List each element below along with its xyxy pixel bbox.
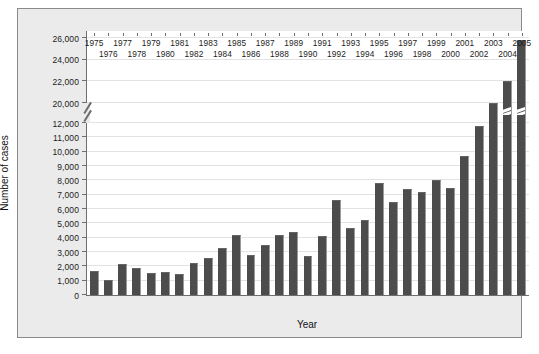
bar <box>389 202 398 295</box>
y-axis-title: Number of cases <box>0 135 10 211</box>
x-axis-tick-label: 1986 <box>242 49 261 59</box>
x-axis-tick <box>94 33 95 36</box>
x-axis-tick <box>465 33 466 36</box>
x-axis-tick-label: 1990 <box>299 49 318 59</box>
x-axis-tick-label: 1994 <box>356 49 375 59</box>
y-axis-tick-label: 4,000 <box>57 233 79 243</box>
x-axis-tick <box>265 33 266 36</box>
bar <box>432 180 441 295</box>
y-axis-tick-label: 24,000 <box>52 55 79 65</box>
x-axis-tick-label: 1993 <box>341 38 360 48</box>
figure: Number of cases 01,0002,0003,0004,0005,0… <box>0 0 539 354</box>
x-axis-tick <box>180 33 181 36</box>
bar <box>261 245 270 295</box>
bar <box>332 200 341 295</box>
x-axis-tick-label: 1992 <box>327 49 346 59</box>
x-axis-tick-label: 1996 <box>384 49 403 59</box>
x-axis-tick-label: 1977 <box>113 38 132 48</box>
x-axis-tick <box>436 33 437 36</box>
x-axis-tick-label: 1991 <box>313 38 332 48</box>
bar <box>289 232 298 295</box>
x-axis-tick-label: 1995 <box>370 38 389 48</box>
bar <box>132 268 141 295</box>
y-axis-tick-label: 0 <box>74 291 79 301</box>
bar <box>147 273 156 295</box>
y-axis-tick-label: 1,000 <box>57 276 79 286</box>
chart-panel: Number of cases 01,0002,0003,0004,0005,0… <box>17 8 522 338</box>
bar <box>446 188 455 296</box>
x-axis-tick <box>251 33 252 36</box>
x-axis-tick <box>237 33 238 36</box>
x-axis-tick-label: 1975 <box>85 38 104 48</box>
y-axis-tick-label: 11,000 <box>53 133 79 143</box>
y-axis-tick-label: 5,000 <box>57 219 79 229</box>
bar <box>204 258 213 295</box>
bar <box>161 272 170 295</box>
y-axis-tick-label: 7,000 <box>57 190 79 200</box>
x-axis-tick <box>294 33 295 36</box>
x-axis-tick <box>137 33 138 36</box>
x-axis-tick <box>493 33 494 36</box>
x-axis-tick <box>108 33 109 36</box>
bar <box>90 271 99 295</box>
x-axis-tick <box>208 33 209 36</box>
x-axis-tick-label: 2003 <box>484 38 503 48</box>
bar <box>190 263 199 295</box>
y-axis-tick-label: 8,000 <box>57 176 79 186</box>
bar <box>304 256 313 295</box>
x-axis-tick <box>379 33 380 36</box>
x-axis-tick <box>308 33 309 36</box>
y-axis-tick-label: 2,000 <box>57 262 79 272</box>
x-axis-tick-label: 1985 <box>227 38 246 48</box>
x-axis-tick-label: 1999 <box>427 38 446 48</box>
y-axis-tick-label: 3,000 <box>57 248 79 258</box>
x-axis-tick-label: 1987 <box>256 38 275 48</box>
x-axis-tick-label: 1997 <box>398 38 417 48</box>
y-axis-tick-label: 9,000 <box>57 162 79 172</box>
x-axis-tick <box>222 33 223 36</box>
bar-break-mark <box>503 106 511 115</box>
x-axis-tick <box>337 33 338 36</box>
bar <box>517 40 526 295</box>
x-axis-tick <box>394 33 395 36</box>
y-axis-tick-label: 26,000 <box>52 34 79 44</box>
bar <box>232 235 241 295</box>
bar <box>247 255 256 295</box>
bar <box>104 280 113 295</box>
bar <box>418 192 427 295</box>
x-axis-tick-label: 2002 <box>470 49 489 59</box>
y-axis-tick-label: 20,000 <box>52 99 79 109</box>
x-axis-tick <box>365 33 366 36</box>
y-axis-tick-label: 6,000 <box>57 205 79 215</box>
x-axis-tick-label: 1976 <box>99 49 118 59</box>
bar <box>460 156 469 295</box>
x-axis-tick <box>151 33 152 36</box>
bar <box>375 183 384 295</box>
x-axis-tick <box>123 33 124 36</box>
bar <box>403 189 412 295</box>
x-axis-tick-label: 1982 <box>184 49 203 59</box>
x-axis-tick-label: 2000 <box>441 49 460 59</box>
x-axis-tick-label: 2004 <box>498 49 517 59</box>
x-axis-tick-label: 1984 <box>213 49 232 59</box>
bar <box>346 228 355 295</box>
x-axis-tick-label: 1988 <box>270 49 289 59</box>
x-axis-tick <box>408 33 409 36</box>
x-axis-tick <box>508 33 509 36</box>
x-axis-tick-label: 1980 <box>156 49 175 59</box>
x-axis-tick <box>479 33 480 36</box>
bar <box>475 126 484 295</box>
bar <box>318 236 327 295</box>
bar <box>489 103 498 295</box>
bar <box>275 235 284 295</box>
bar-series <box>87 31 529 295</box>
x-axis-tick-label: 1979 <box>142 38 161 48</box>
x-axis-tick <box>522 33 523 36</box>
bar-break-mark <box>517 106 525 115</box>
x-axis-tick-label: 1998 <box>413 49 432 59</box>
x-axis-tick <box>279 33 280 36</box>
y-axis-tick-label: 10,000 <box>52 147 79 157</box>
x-axis-tick <box>422 33 423 36</box>
x-axis-tick-label: 2005 <box>512 38 531 48</box>
bar <box>118 264 127 295</box>
